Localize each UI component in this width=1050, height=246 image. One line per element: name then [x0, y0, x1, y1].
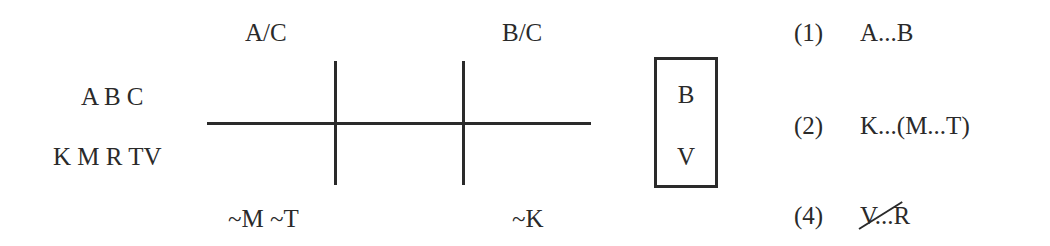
sequence-line — [207, 122, 591, 125]
letters-group-2: K M R TV — [53, 144, 162, 169]
constraint-text-1: A...B — [860, 20, 913, 45]
negation-label-2: ~K — [512, 206, 544, 231]
constraint-number-3: (4) — [794, 203, 823, 228]
box-item-2: V — [657, 144, 715, 169]
remaining-items-box: B V — [654, 57, 718, 188]
slot-label-2: B/C — [502, 20, 542, 45]
constraint-number-1: (1) — [794, 20, 823, 45]
constraint-number-2: (2) — [794, 113, 823, 138]
negation-label-1: ~M ~T — [228, 206, 299, 231]
slot-label-1: A/C — [245, 20, 287, 45]
divider-line-2 — [462, 61, 465, 185]
box-item-1: B — [657, 82, 715, 107]
letters-group-1: A B C — [81, 84, 144, 109]
divider-line-1 — [334, 61, 337, 185]
constraint-text-2: K...(M...T) — [860, 113, 970, 138]
